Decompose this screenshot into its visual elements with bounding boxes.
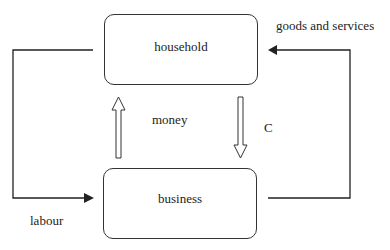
goods-flow-line [268,50,350,198]
goods-arrowhead-icon [268,45,277,55]
c-down-arrow-icon [234,97,247,158]
household-label: household [105,39,257,55]
c-label: C [264,120,273,136]
labour-arrowhead-icon [84,193,94,203]
business-node: business [103,168,257,239]
labour-label: labour [30,213,63,229]
labour-flow-line [13,50,93,198]
money-up-arrow-icon [112,97,125,158]
money-label: money [152,112,187,128]
goods-and-services-label: goods and services [276,18,374,34]
household-node: household [104,14,258,85]
business-label: business [104,191,256,207]
